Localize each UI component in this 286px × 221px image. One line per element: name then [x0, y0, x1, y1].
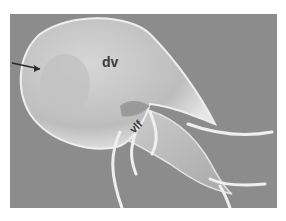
label-dv: dv — [102, 54, 119, 70]
micrograph: dv vlf — [10, 14, 277, 208]
micrograph-drawing: dv vlf — [10, 14, 277, 208]
disc-texture — [40, 54, 90, 114]
